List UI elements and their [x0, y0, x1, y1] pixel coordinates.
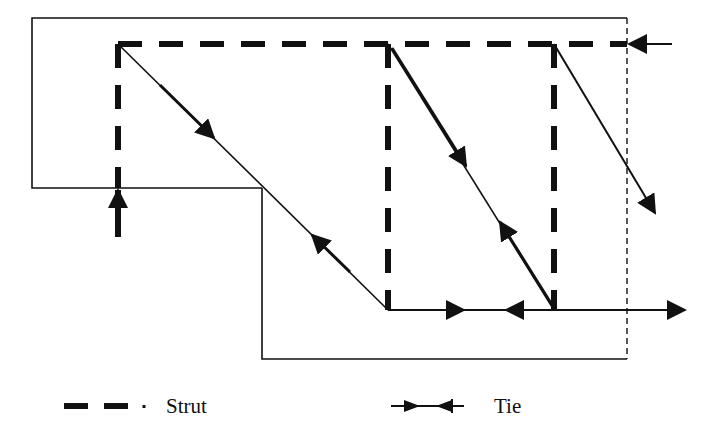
- legend: [64, 399, 464, 413]
- legend-strut-label: Strut: [166, 396, 207, 417]
- legend-tie-symbol: [391, 399, 464, 413]
- reactions: [118, 44, 672, 237]
- strut-and-tie-diagram: [0, 0, 715, 440]
- struts: [118, 44, 627, 310]
- member-outline: [32, 18, 627, 359]
- tie-arrow-up-1: [312, 235, 350, 272]
- lower-block-outline: [262, 188, 627, 359]
- legend-tie-label: Tie: [494, 396, 521, 417]
- tie-arrow-down-2: [392, 48, 466, 166]
- legend-strut-symbol: [64, 405, 144, 408]
- ties: [118, 44, 685, 310]
- diagonal-tie-3: [554, 44, 655, 213]
- tie-arrow-down-1: [160, 85, 214, 138]
- tie-arrow-up-2: [500, 222, 552, 305]
